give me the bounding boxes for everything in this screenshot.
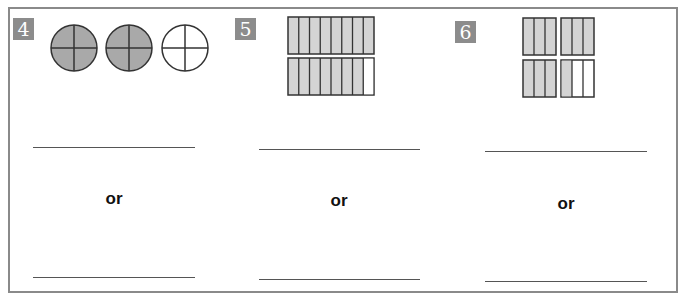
circle-whole-3 xyxy=(162,25,208,71)
rect-whole-4 xyxy=(561,60,594,97)
circle-whole-2 xyxy=(106,25,152,71)
problem-number-badge: 6 xyxy=(455,21,476,43)
or-label: or xyxy=(84,189,144,209)
or-label: or xyxy=(309,191,369,211)
answer-line-top[interactable] xyxy=(485,151,647,152)
problem-number-badge: 5 xyxy=(235,18,256,40)
circle-whole-1 xyxy=(51,25,97,71)
rect-whole-3 xyxy=(523,60,556,97)
rect-whole-1 xyxy=(288,17,374,54)
fraction-circles-model xyxy=(48,22,213,74)
answer-line-bottom[interactable] xyxy=(485,281,647,282)
answer-line-top[interactable] xyxy=(259,149,420,150)
fraction-rectangles-model xyxy=(287,16,377,98)
answer-line-bottom[interactable] xyxy=(33,277,195,278)
rect-whole-1 xyxy=(523,18,556,55)
answer-line-top[interactable] xyxy=(33,147,195,148)
problem-number-badge: 4 xyxy=(13,18,34,40)
rect-whole-2 xyxy=(288,58,374,95)
answer-line-bottom[interactable] xyxy=(259,279,420,280)
or-label: or xyxy=(536,194,596,214)
rect-whole-2 xyxy=(561,18,594,55)
fraction-rectangles-model xyxy=(522,17,598,101)
